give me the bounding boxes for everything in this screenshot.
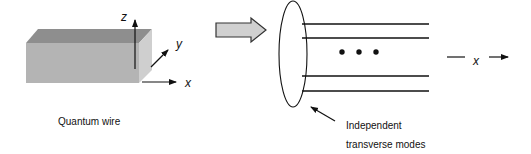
- ellipsis-dots: [339, 49, 378, 54]
- diagram-canvas: z y x Quantum wire x Independent transve…: [0, 0, 531, 154]
- z-axis-label: z: [120, 10, 127, 24]
- quantum-wire-caption: Quantum wire: [58, 116, 121, 127]
- mode-lines: [302, 24, 429, 91]
- propagation-axis-label: x: [472, 54, 480, 68]
- x-axis-label: x: [184, 76, 192, 90]
- annotation-pointer-arrow: [311, 107, 335, 121]
- annotation-line-2: transverse modes: [346, 139, 425, 150]
- box-front-face: [26, 43, 139, 83]
- transition-arrow: [216, 18, 266, 42]
- box-top-face: [26, 29, 152, 43]
- quantum-wire-diagram: z y x Quantum wire x Independent transve…: [0, 0, 531, 154]
- annotation-line-1: Independent: [346, 120, 402, 131]
- y-axis-label: y: [175, 37, 183, 51]
- quantum-wire-box: [26, 29, 152, 83]
- y-axis-arrow: [151, 50, 168, 67]
